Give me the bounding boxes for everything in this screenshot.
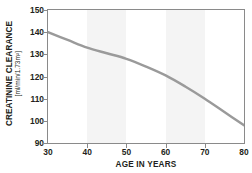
y-tick-label-130: 130 [20,50,44,58]
y-tick-label-120: 120 [20,72,44,80]
x-axis-tick-labels: 304050607080 [47,148,245,159]
creatinine-clearance-chart: CREATININE CLEARANCE [ml/min/1.73m²] 901… [0,0,252,173]
x-tick-label-60: 60 [154,148,178,156]
x-axis-title: AGE IN YEARS [47,161,245,169]
y-tick-mark-110 [42,99,47,100]
y-tick-label-90: 90 [20,139,44,147]
data-line-svg [48,10,244,143]
x-tick-label-30: 30 [36,148,60,156]
y-tick-label-100: 100 [20,117,44,125]
x-tick-mark-60 [166,144,167,148]
y-tick-label-140: 140 [20,28,44,36]
x-tick-label-70: 70 [193,148,217,156]
y-tick-mark-90 [42,143,47,144]
y-tick-label-150: 150 [20,6,44,14]
x-tick-mark-70 [205,144,206,148]
y-tick-mark-120 [42,77,47,78]
x-tick-label-80: 80 [232,148,252,156]
x-tick-label-40: 40 [75,148,99,156]
x-tick-label-50: 50 [114,148,138,156]
creatinine-clearance-line [48,32,244,125]
y-tick-mark-140 [42,32,47,33]
x-tick-mark-50 [126,144,127,148]
x-tick-mark-40 [87,144,88,148]
plot-area [47,9,245,144]
y-tick-mark-150 [42,10,47,11]
y-axis-tick-labels: 90100110120130140150 [19,9,44,144]
y-tick-mark-130 [42,54,47,55]
y-tick-label-110: 110 [20,94,44,102]
y-tick-mark-100 [42,121,47,122]
